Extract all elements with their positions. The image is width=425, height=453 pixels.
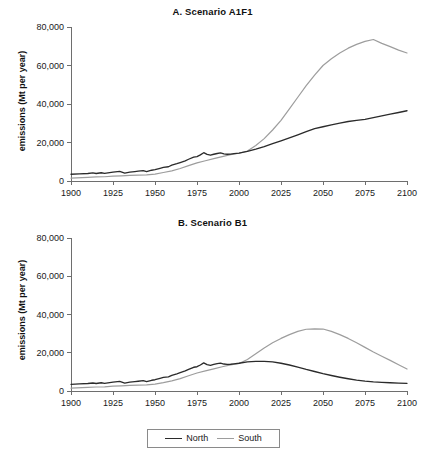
series-line-north [71,111,407,175]
chart-panel-b: B. Scenario B1 emissions (Mt per year) 0… [0,213,425,418]
x-tick-label: 2050 [313,188,333,198]
legend-label-south: South [238,434,262,443]
x-tick-label: 1975 [187,398,207,408]
series-line-south [71,40,407,179]
x-tick-label: 2100 [397,188,417,198]
y-tick-label: 0 [59,386,64,396]
y-tick-label: 80,000 [36,233,64,243]
x-tick-label: 1900 [61,398,81,408]
chart-panel-a: A. Scenario A1F1 emissions (Mt per year)… [0,0,425,210]
x-tick-label: 1925 [103,398,123,408]
x-tick-label: 2000 [229,188,249,198]
chart-legend: North South [147,429,280,448]
y-tick-label: 20,000 [36,348,64,358]
chart-b-plot-area: 020,00040,00060,00080,000190019251950197… [0,213,425,418]
x-tick-label: 1900 [61,188,81,198]
y-tick-label: 80,000 [36,22,64,32]
legend-line-south-icon [217,438,234,439]
x-tick-label: 1950 [145,398,165,408]
y-tick-label: 60,000 [36,271,64,281]
y-tick-label: 40,000 [36,310,64,320]
x-tick-label: 2075 [355,188,375,198]
legend-entry-north: North [165,434,208,443]
x-tick-label: 2100 [397,398,417,408]
legend-entry-south: South [217,434,262,443]
legend-line-north-icon [165,438,182,439]
emissions-scenarios-figure: A. Scenario A1F1 emissions (Mt per year)… [0,0,425,453]
series-line-south [71,329,407,388]
y-tick-label: 40,000 [36,99,64,109]
chart-b-svg: 020,00040,00060,00080,000190019251950197… [0,213,425,418]
y-tick-label: 60,000 [36,61,64,71]
x-tick-label: 2025 [271,398,291,408]
legend-label-north: North [186,434,208,443]
x-tick-label: 1975 [187,188,207,198]
series-line-north [71,361,407,384]
x-tick-label: 1950 [145,188,165,198]
x-tick-label: 2025 [271,188,291,198]
y-tick-label: 0 [59,176,64,186]
x-tick-label: 2075 [355,398,375,408]
y-tick-label: 20,000 [36,138,64,148]
chart-a-plot-area: 020,00040,00060,00080,000190019251950197… [0,0,425,210]
chart-a-svg: 020,00040,00060,00080,000190019251950197… [0,0,425,210]
x-tick-label: 2050 [313,398,333,408]
x-tick-label: 2000 [229,398,249,408]
x-tick-label: 1925 [103,188,123,198]
